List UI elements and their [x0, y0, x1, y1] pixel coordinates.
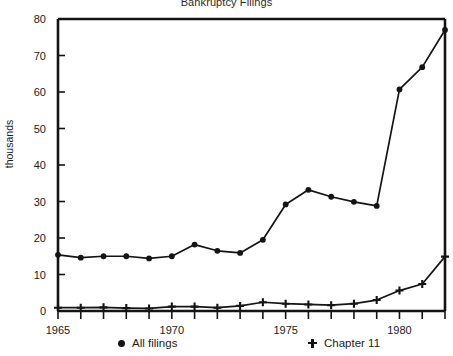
plot-area: 01020304050607080 1965197019751980	[0, 0, 453, 336]
x-axis-ticks: 1965197019751980	[46, 311, 445, 336]
data-point-marker	[374, 203, 380, 209]
data-point-marker	[419, 64, 425, 70]
data-point-marker	[283, 202, 289, 208]
chart-figure: Bankruptcy Filings thousands 01020304050…	[0, 0, 453, 356]
data-point-marker	[169, 253, 175, 259]
x-tick-label: 1975	[273, 324, 297, 336]
y-tick-label: 70	[34, 50, 46, 62]
data-point-marker	[259, 298, 267, 306]
circle-marker-icon	[118, 340, 125, 347]
legend-label-chapter-11: Chapter 11	[324, 337, 380, 349]
y-tick-label: 30	[34, 196, 46, 208]
data-point-marker	[214, 248, 220, 254]
y-axis-ticks: 01020304050607080	[34, 13, 65, 317]
data-series-2	[54, 253, 449, 313]
data-series-group	[54, 27, 449, 312]
data-point-marker	[328, 194, 334, 200]
y-tick-label: 0	[40, 305, 46, 317]
data-point-marker	[236, 302, 244, 310]
data-point-marker	[123, 253, 129, 259]
data-point-marker	[395, 287, 403, 295]
data-point-marker	[351, 199, 357, 205]
y-tick-label: 50	[34, 123, 46, 135]
data-point-marker	[168, 303, 176, 311]
y-tick-label: 40	[34, 159, 46, 171]
x-tick-label: 1965	[46, 324, 70, 336]
data-point-marker	[78, 255, 84, 261]
x-tick-label: 1970	[160, 324, 184, 336]
legend-item-all-filings[interactable]: All filings	[118, 337, 177, 349]
data-point-marker	[282, 300, 290, 308]
data-point-marker	[304, 300, 312, 308]
legend: All filings Chapter 11	[0, 337, 453, 356]
legend-item-chapter-11[interactable]: Chapter 11	[308, 337, 380, 349]
x-tick-label: 1980	[387, 324, 411, 336]
y-tick-label: 10	[34, 269, 46, 281]
y-tick-label: 80	[34, 13, 46, 25]
data-point-marker	[442, 27, 448, 33]
data-point-marker	[350, 300, 358, 308]
plus-marker-icon	[308, 339, 317, 348]
data-point-marker	[327, 301, 335, 309]
data-point-marker	[397, 87, 403, 93]
data-point-marker	[260, 237, 266, 243]
y-tick-label: 60	[34, 86, 46, 98]
axis-frame	[58, 19, 445, 311]
y-tick-label: 20	[34, 232, 46, 244]
data-series-1	[55, 27, 448, 261]
data-point-marker	[306, 187, 312, 193]
data-point-marker	[55, 252, 61, 258]
data-point-marker	[237, 250, 243, 256]
legend-label-all-filings: All filings	[132, 337, 177, 349]
data-point-marker	[191, 303, 199, 311]
data-point-marker	[192, 242, 198, 248]
data-point-marker	[373, 296, 381, 304]
data-point-marker	[101, 253, 107, 259]
data-point-marker	[146, 256, 152, 262]
